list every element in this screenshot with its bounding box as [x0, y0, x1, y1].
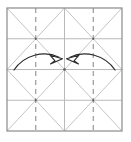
vertex-bottom-right-quad-dot: [92, 99, 94, 101]
vertex-top-left-quad-dot: [35, 38, 37, 40]
vertex-bottom-left-quad-dot: [35, 99, 37, 101]
vertex-center-dot: [63, 68, 65, 70]
crease-pattern-canvas: [0, 0, 131, 142]
crease-pattern-figure: [0, 0, 131, 142]
vertex-top-right-quad-dot: [92, 38, 94, 40]
